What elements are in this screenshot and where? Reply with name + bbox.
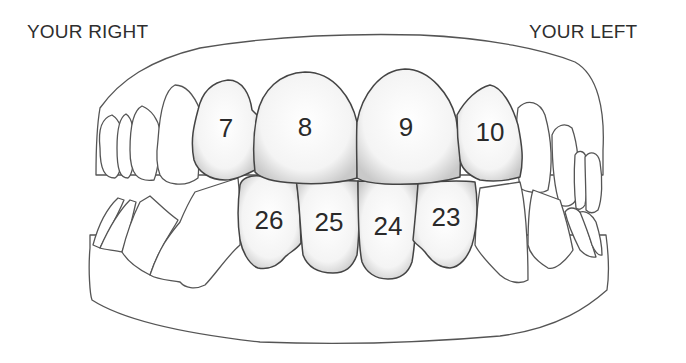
dental-arch-diagram: 26 25 24 23 7 8 9 10 bbox=[0, 0, 686, 363]
tooth-25[interactable]: 25 bbox=[296, 179, 359, 273]
tooth-24[interactable]: 24 bbox=[358, 181, 418, 279]
